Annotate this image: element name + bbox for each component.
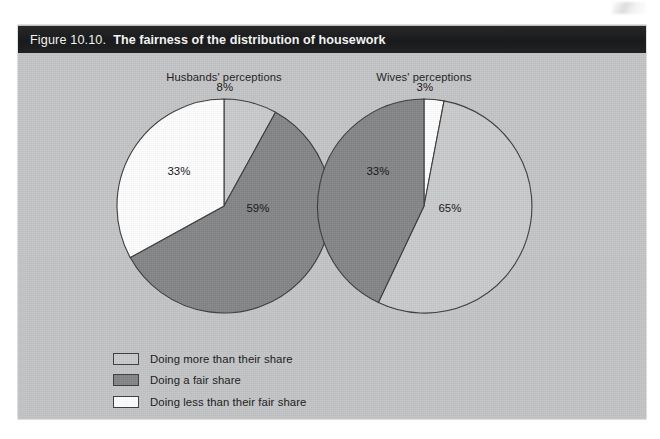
husbands-label-33-percent: 33% [167,165,190,177]
chart-legend: Doing more than their share Doing a fair… [113,349,306,414]
legend-swatch-more-than-share [113,353,139,365]
wives-label-3-percent: 3% [417,81,434,93]
figure-panel: Husbands' perceptions 8% 59% 33% Wives' … [18,25,646,419]
legend-swatch-fair-share [113,374,139,386]
husbands-label-8-percent: 8% [217,81,234,93]
wives-label-33-percent: 33% [366,165,389,177]
husbands-pie-chart [117,99,331,313]
legend-swatch-less-than-fair-share [113,396,139,408]
wives-label-65-percent: 65% [438,202,461,214]
scan-artifact [612,2,646,14]
figure-number: Figure 10.10. [30,33,106,47]
page-root: Husbands' perceptions 8% 59% 33% Wives' … [0,0,660,439]
legend-item-fair-share: Doing a fair share [113,371,306,390]
legend-label-more-than-share: Doing more than their share [150,353,293,365]
figure-title: The fairness of the distribution of hous… [113,33,385,47]
husbands-label-59-percent: 59% [246,202,269,214]
legend-label-fair-share: Doing a fair share [150,374,241,386]
legend-item-more-than-share: Doing more than their share [113,349,306,368]
legend-label-less-than-fair-share: Doing less than their fair share [150,396,306,408]
wives-pie-chart [317,99,531,313]
legend-item-less-than-fair-share: Doing less than their fair share [113,392,306,411]
figure-title-text: Figure 10.10. The fairness of the distri… [18,33,386,47]
figure-title-bar: Figure 10.10. The fairness of the distri… [18,26,646,53]
chart-area: Husbands' perceptions 8% 59% 33% Wives' … [18,25,646,419]
